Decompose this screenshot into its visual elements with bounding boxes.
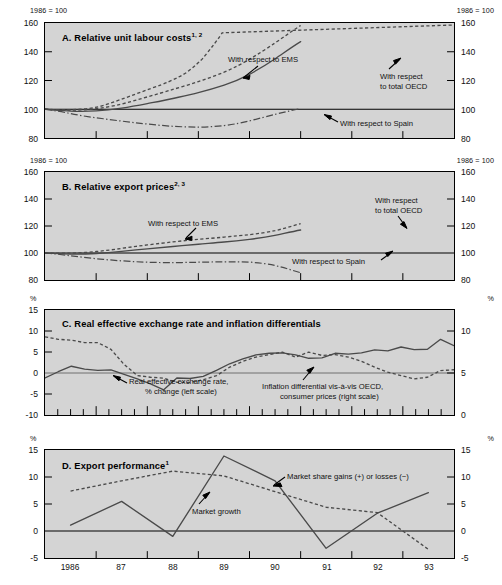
competitiveness-indicators-figure: 1986 = 100 1986 = 100 160 140 120 100 80… (0, 0, 502, 585)
panel-b-unit-left: 1986 = 100 (30, 156, 67, 165)
panel-b-ytick-right-80: 80 (461, 276, 501, 285)
panel-c-title: C. Real effective exchange rate and infl… (62, 319, 321, 329)
panel-b-anno-ems: With respect to EMS (148, 219, 218, 228)
panel-d-ytick-5: 5 (0, 500, 38, 509)
panel-b-right-ticks (447, 199, 454, 226)
panel-b-unit-right: 1986 = 100 (457, 156, 494, 165)
panel-a-ytick-right-140: 140 (461, 48, 501, 57)
panel-b-ytick-140: 140 (0, 195, 38, 204)
panel-b-ytick-right-160: 160 (461, 168, 501, 177)
panel-d-ytick-right-0: 0 (461, 527, 501, 536)
panel-a-ytick-120: 120 (0, 77, 38, 86)
panel-a-ytick-100: 100 (0, 106, 38, 115)
panel-b-anno-oecd-line1: With respect (375, 196, 418, 205)
panel-c-right-ticks (447, 331, 454, 373)
panel-b-left-ticks (45, 199, 52, 226)
panel-c-unit-right: % (488, 294, 495, 303)
panel-a-anno-ems: With respect to EMS (228, 55, 298, 64)
panel-b-series-spain (45, 253, 301, 273)
panel-a: 1986 = 100 1986 = 100 160 140 120 100 80… (0, 0, 502, 145)
panel-a-ytick-right-120: 120 (461, 77, 501, 86)
panel-c-ytick-right-10: 10 (461, 327, 501, 336)
panel-b-anno-spain: With respect to Spain (292, 257, 365, 266)
panel-d-title-text: D. Export performance (62, 461, 165, 471)
panel-a-right-ticks (447, 52, 454, 81)
panel-c-anno-infl-line1: Inflation differential vis-à-vis OECD, (262, 382, 383, 391)
panel-a-ytick-right-160: 160 (461, 19, 501, 28)
panel-d-series-market-growth (71, 471, 429, 549)
panel-b-title-superscript: 2, 3 (174, 180, 185, 187)
panel-c-anno-reer-line2: % change (left scale) (145, 387, 217, 396)
panel-b-ytick-120: 120 (0, 222, 38, 231)
panel-c-ytick-right-0: 0 (461, 411, 501, 420)
panel-a-title: A. Relative unit labour costs1, 2 (62, 31, 202, 43)
panel-b-title: B. Relative export prices2, 3 (62, 180, 185, 192)
panel-c-unit-left: % (30, 294, 37, 303)
panel-c-left-ticks (45, 331, 52, 394)
panel-c-anno-infl-line2: consumer prices (right scale) (280, 392, 379, 401)
panel-a-anno-oecd-line1: With respect (380, 72, 423, 81)
panel-a-anno-spain: With respect to Spain (340, 119, 413, 128)
panel-c-ytick-5: 5 (0, 348, 38, 357)
panel-d-ytick-0: 0 (0, 527, 38, 536)
panel-c-ytick-0: 0 (0, 369, 38, 378)
panel-c-anno-reer-line1: Real effective exchange rate, (129, 377, 228, 386)
panel-b-anno-oecd-line2: to total OECD (375, 206, 422, 215)
panel-d-ytick-right-m5: -5 (461, 554, 501, 563)
panel-a-anno-oecd-line2: to total OECD (380, 82, 427, 91)
panel-d-unit-left: % (30, 434, 37, 443)
panel-d-x-ticks (96, 551, 403, 558)
panel-a-ytick-160: 160 (0, 19, 38, 28)
panel-d: % % 15 10 5 0 -5 15 10 5 0 -5 (0, 432, 502, 585)
panel-d-unit-right: % (488, 434, 495, 443)
panel-d-xlabel-93: 93 (399, 563, 459, 571)
panel-b-ytick-right-100: 100 (461, 249, 501, 258)
panel-d-ytick-10: 10 (0, 473, 38, 482)
panel-a-series-oecd (45, 42, 301, 112)
panel-a-x-ticks (96, 131, 403, 138)
panel-a-title-text: A. Relative unit labour costs (62, 33, 191, 43)
panel-b-ytick-80: 80 (0, 276, 38, 285)
panel-d-title: D. Export performance1 (62, 459, 169, 471)
panel-d-anno-market-growth: Market growth (192, 507, 241, 516)
panel-c-series-inflation (45, 337, 454, 383)
panel-d-right-ticks (447, 477, 454, 504)
panel-d-xlabel-90: 90 (245, 563, 305, 571)
panel-d-title-superscript: 1 (165, 459, 169, 466)
panel-d-ytick-right-15: 15 (461, 446, 501, 455)
panel-b-ytick-right-120: 120 (461, 222, 501, 231)
panel-b-ytick-100: 100 (0, 249, 38, 258)
panel-a-title-superscript: 1, 2 (191, 31, 202, 38)
panel-d-anno-market-share: Market share gains (+) or losses (−) (287, 472, 409, 481)
panel-b-title-text: B. Relative export prices (62, 182, 174, 192)
panel-d-ytick-right-5: 5 (461, 500, 501, 509)
panel-a-unit-left: 1986 = 100 (30, 6, 67, 15)
panel-c: % % 15 10 5 0 -5 -10 10 5 0 (0, 292, 502, 432)
panel-b-ytick-right-140: 140 (461, 195, 501, 204)
panel-d-xlabel-87: 87 (91, 563, 151, 571)
panel-c-ytick-m5: -5 (0, 390, 38, 399)
panel-a-ytick-right-80: 80 (461, 135, 501, 144)
panel-d-left-ticks (45, 477, 52, 504)
panel-d-ytick-15: 15 (0, 446, 38, 455)
panel-a-unit-right: 1986 = 100 (457, 6, 494, 15)
panel-b-x-ticks (96, 273, 403, 280)
panel-a-ytick-80: 80 (0, 135, 38, 144)
panel-a-ytick-140: 140 (0, 48, 38, 57)
panel-c-ytick-right-5: 5 (461, 369, 501, 378)
panel-a-left-ticks (45, 52, 52, 81)
panel-d-ytick-right-10: 10 (461, 473, 501, 482)
panel-b: 1986 = 100 1986 = 100 160 140 120 100 80… (0, 152, 502, 292)
panel-d-ytick-m5: -5 (0, 554, 38, 563)
panel-c-x-ticks (58, 406, 441, 415)
panel-a-ytick-right-100: 100 (461, 106, 501, 115)
panel-c-ytick-15: 15 (0, 306, 38, 315)
panel-c-ytick-10: 10 (0, 327, 38, 336)
panel-b-ytick-160: 160 (0, 168, 38, 177)
panel-c-ytick-m10: -10 (0, 411, 38, 420)
